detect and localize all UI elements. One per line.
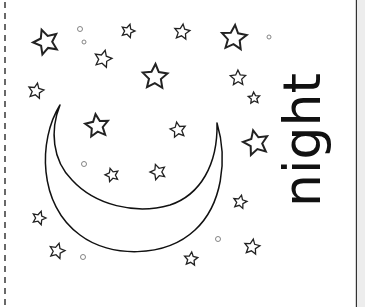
night-coloring-worksheet: night [0,0,365,307]
small-circle-icon [216,237,221,242]
small-circle-icon [78,27,83,32]
star-icon [50,243,65,258]
star-icon [234,195,247,208]
stars-group [29,24,267,265]
worksheet-word: night [276,73,328,207]
star-icon [105,168,118,181]
star-icon [122,24,135,37]
star-icon [33,211,46,224]
crescent-moon-icon [45,105,222,252]
star-icon [143,64,168,88]
star-icon [222,25,247,49]
star-icon [85,114,108,136]
star-icon [150,164,165,179]
star-icon [170,122,185,137]
star-icon [185,252,198,265]
small-circle-icon [267,35,271,39]
right-margin-strip [357,0,365,307]
star-icon [175,24,190,39]
star-icon [248,92,259,103]
star-icon [33,30,57,55]
star-icon [230,70,245,85]
star-icon [245,239,260,254]
star-icon [29,83,44,98]
small-circle-icon [81,255,86,260]
small-circle-icon [82,162,87,167]
star-icon [95,50,112,67]
small-circle-icon [82,40,86,44]
star-icon [243,130,267,155]
